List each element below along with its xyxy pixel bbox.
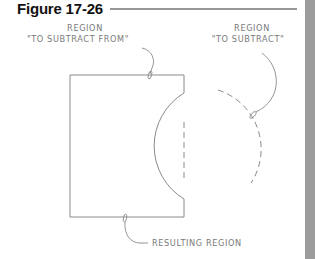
- leader-loop-icon: [123, 214, 128, 222]
- label-subtract-from-line2: "TO SUBTRACT FROM": [27, 34, 129, 44]
- label-resulting-region: RESULTING REGION: [152, 238, 242, 248]
- label-subtract-from-line1: REGION: [67, 23, 103, 33]
- figure-page: Figure 17-26 REGION "TO SUBTRACT FROM" R…: [0, 0, 315, 259]
- leader-subtract-from: [142, 48, 154, 74]
- subtract-region-dashed-arc: [218, 90, 261, 183]
- label-subtract-line2: "TO SUBTRACT": [212, 34, 285, 44]
- resulting-region-shape: [70, 75, 184, 217]
- leader-resulting-region: [125, 222, 148, 243]
- region-subtract-diagram: REGION "TO SUBTRACT FROM" REGION "TO SUB…: [0, 0, 315, 259]
- leader-subtract: [256, 53, 276, 112]
- label-subtract-line1: REGION: [234, 23, 270, 33]
- leader-loop-icon: [249, 111, 257, 120]
